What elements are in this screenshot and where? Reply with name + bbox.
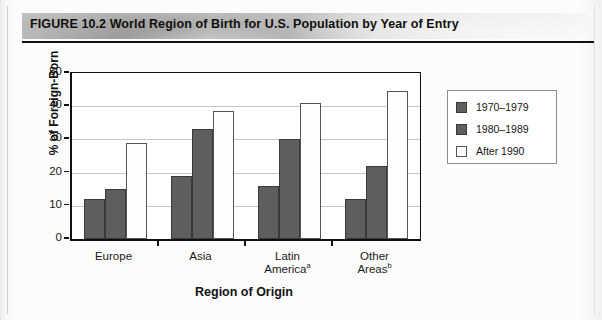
x-axis-category-label: OtherAreasb xyxy=(320,250,430,276)
legend-item[interactable]: 1980–1989 xyxy=(456,122,529,136)
x-axis-title: Region of Origin xyxy=(70,285,418,299)
x-axis-tick-mark xyxy=(244,240,246,246)
bar-chart: 01020304050 % of Foreign-Born EuropeAsia… xyxy=(0,0,602,320)
figure-container: FIGURE 10.2 World Region of Birth for U.… xyxy=(0,0,602,320)
x-axis-tick-mark xyxy=(331,240,333,246)
legend-label: 1980–1989 xyxy=(476,123,529,135)
bar-group xyxy=(333,73,420,239)
legend-label: After 1990 xyxy=(476,145,524,157)
legend-swatch-icon xyxy=(456,102,467,113)
chart-legend: 1970–19791980–1989After 1990 xyxy=(447,90,557,164)
bar-group xyxy=(159,73,246,239)
y-axis-tick-mark xyxy=(64,71,69,73)
bar xyxy=(387,91,408,239)
bar xyxy=(258,186,279,239)
y-axis-tick-label: 10 xyxy=(32,198,62,210)
y-axis-title: % of Foreign-Born xyxy=(47,18,61,188)
y-axis-tick-label: 0 xyxy=(32,231,62,243)
y-axis-tick-mark xyxy=(64,137,69,139)
bar xyxy=(279,139,300,239)
legend-swatch-icon xyxy=(456,124,467,135)
y-axis-tick-mark xyxy=(64,237,69,239)
y-axis-tick-mark xyxy=(64,204,69,206)
bar xyxy=(213,111,234,239)
bar xyxy=(366,166,387,239)
figure-title: FIGURE 10.2 World Region of Birth for U.… xyxy=(30,17,459,31)
bar xyxy=(126,143,147,239)
bar-group xyxy=(246,73,333,239)
x-axis-tick-mark xyxy=(157,240,159,246)
legend-item[interactable]: After 1990 xyxy=(456,144,524,158)
y-axis-tick-mark xyxy=(64,104,69,106)
plot-area xyxy=(70,72,421,241)
legend-label: 1970–1979 xyxy=(476,101,529,113)
bar xyxy=(171,176,192,239)
bar xyxy=(300,103,321,239)
bar xyxy=(345,199,366,239)
legend-item[interactable]: 1970–1979 xyxy=(456,100,529,114)
legend-swatch-icon xyxy=(456,146,467,157)
bar-group xyxy=(72,73,159,239)
y-axis-tick-mark xyxy=(64,171,69,173)
bar xyxy=(192,129,213,239)
bar xyxy=(105,189,126,239)
bar xyxy=(84,199,105,239)
bar-series-container xyxy=(72,73,420,239)
